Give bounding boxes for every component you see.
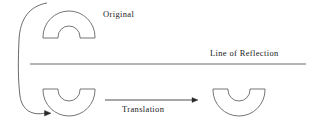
translated-arch-shape [213, 89, 265, 116]
reflected-arch-shape [43, 89, 95, 116]
label-original: Original [103, 9, 134, 19]
translation-arrow [105, 98, 198, 103]
label-line-of-reflection: Line of Reflection [210, 48, 279, 58]
reflection-arrowhead [45, 110, 52, 116]
original-arch-shape [43, 11, 95, 38]
translation-arrowhead [192, 98, 198, 103]
transformation-diagram: Original Line of Reflection Translation [0, 0, 316, 126]
label-translation: Translation [122, 104, 164, 114]
